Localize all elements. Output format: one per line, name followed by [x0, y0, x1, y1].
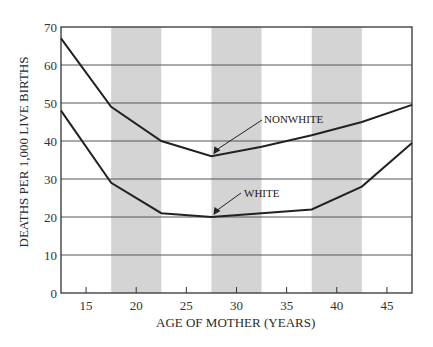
line-chart: 15202530354045010203040506070 NONWHITEWH… — [0, 0, 433, 347]
y-tick-label: 10 — [44, 248, 57, 263]
x-tick-label: 15 — [80, 298, 93, 313]
y-tick-label: 30 — [44, 172, 57, 187]
y-tick-label: 50 — [44, 96, 57, 111]
y-tick-label: 60 — [44, 58, 57, 73]
annotation-label: WHITE — [244, 187, 280, 199]
y-tick-label: 0 — [51, 286, 58, 301]
x-tick-label: 20 — [130, 298, 143, 313]
x-tick-label: 35 — [280, 298, 293, 313]
shaded-band — [312, 27, 362, 293]
y-axis-label: DEATHS PER 1,000 LIVE BIRTHS — [16, 57, 32, 248]
shaded-band — [111, 27, 161, 293]
y-tick-label: 40 — [44, 134, 57, 149]
x-axis-label: AGE OF MOTHER (YEARS) — [156, 315, 315, 331]
annotation-label: NONWHITE — [264, 113, 324, 125]
y-tick-label: 20 — [44, 210, 57, 225]
x-tick-label: 45 — [380, 298, 393, 313]
y-tick-label: 70 — [44, 20, 57, 35]
x-tick-label: 25 — [180, 298, 193, 313]
x-tick-label: 30 — [230, 298, 243, 313]
shaded-band — [211, 27, 261, 293]
x-tick-label: 40 — [330, 298, 343, 313]
shaded-bands — [111, 27, 362, 293]
